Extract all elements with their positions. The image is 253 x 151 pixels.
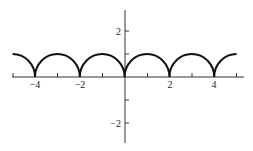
x-label-neg4: −4 [30,79,41,90]
y-label-neg2: −2 [110,118,121,129]
x-label-2: 2 [168,79,173,90]
x-label-4: 4 [212,79,217,90]
x-label-neg2: −2 [75,79,86,90]
chart: −4 −2 2 4 2 −2 [0,0,253,151]
y-label-2: 2 [116,26,121,37]
